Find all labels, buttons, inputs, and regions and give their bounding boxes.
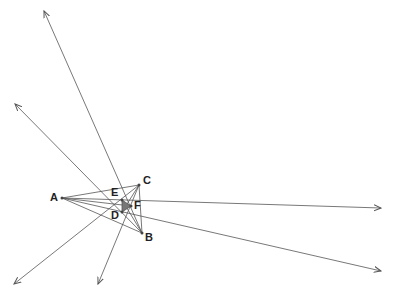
point-a <box>61 197 64 200</box>
ray-a-right <box>62 198 381 208</box>
label-a: A <box>50 192 58 203</box>
label-b: B <box>145 232 153 243</box>
ray-a-rightdown <box>62 198 381 271</box>
label-d: D <box>111 210 119 221</box>
geometry-diagram: A B C D E F <box>0 0 394 300</box>
label-f: F <box>134 200 141 211</box>
label-c: C <box>143 175 151 186</box>
label-e: E <box>111 187 118 198</box>
point-f <box>130 205 133 208</box>
ray-b-upleft <box>15 104 142 233</box>
point-d <box>121 211 124 214</box>
diagram-svg <box>0 0 394 300</box>
point-c <box>138 184 141 187</box>
point-e <box>121 199 124 202</box>
segment-ab <box>62 198 142 233</box>
segment-ac <box>62 185 139 198</box>
point-b <box>141 232 144 235</box>
